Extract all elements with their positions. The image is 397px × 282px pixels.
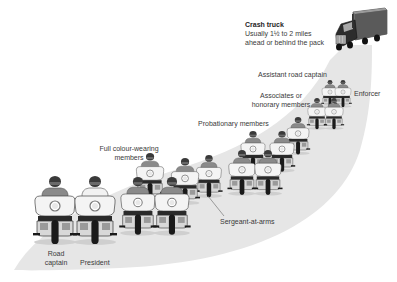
associates-label: Associates or honorary members bbox=[249, 92, 313, 109]
full-colour-label: Full colour-wearing members bbox=[96, 145, 162, 162]
road-captain-label-line2: captain bbox=[40, 259, 72, 268]
road-captain-label-line1: Road bbox=[40, 250, 72, 259]
full-colour-label-line1: Full colour-wearing bbox=[96, 145, 162, 154]
crash-truck-title: Crash truck bbox=[245, 21, 324, 30]
sergeant-at-arms-label: Sergeant-at-arms bbox=[220, 218, 274, 227]
rider-president bbox=[73, 176, 117, 245]
probationary-label: Probationary members bbox=[198, 120, 269, 129]
rider-road-captain bbox=[33, 176, 77, 245]
pack-formation-diagram bbox=[0, 0, 397, 282]
enforcer-label: Enforcer bbox=[354, 90, 380, 99]
associates-label-line2: honorary members bbox=[249, 101, 313, 110]
full-colour-label-line2: members bbox=[96, 154, 162, 163]
road-captain-label: Road captain bbox=[40, 250, 72, 267]
crash-truck-icon bbox=[336, 8, 387, 51]
president-label: President bbox=[80, 259, 110, 268]
associates-label-line1: Associates or bbox=[249, 92, 313, 101]
crash-truck-label: Crash truck Usually 1½ to 2 miles ahead … bbox=[245, 21, 324, 47]
crash-truck-desc-2: ahead or behind the pack bbox=[245, 39, 324, 48]
assistant-road-captain-label: Assistant road captain bbox=[258, 71, 327, 80]
crash-truck-desc-1: Usually 1½ to 2 miles bbox=[245, 30, 324, 39]
